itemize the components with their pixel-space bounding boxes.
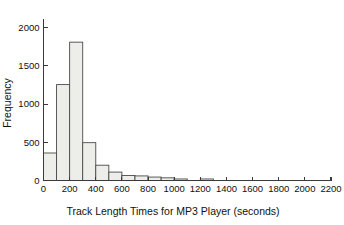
chart-canvas: 0200400600800100012001400160018002000220… [0,0,344,225]
histogram-bar [109,172,122,180]
x-axis-tick-labels: 0200400600800100012001400160018002000220… [41,183,342,194]
histogram-bar [122,176,135,181]
x-axis-title: Track Length Times for MP3 Player (secon… [66,205,279,217]
histogram-bar [57,85,70,181]
histogram-bar [70,42,83,180]
histogram-bar [83,143,96,181]
x-tick-label: 1800 [268,183,289,194]
y-tick-label: 0 [34,175,39,186]
x-tick-label: 600 [114,183,130,194]
histogram-bar [44,153,57,181]
x-tick-label: 1600 [242,183,263,194]
x-tick-label: 400 [88,183,104,194]
y-axis-tick-labels: 0500100015002000 [18,22,39,186]
y-axis-title: Frequency [1,77,13,127]
histogram-bars [44,42,214,180]
histogram-bar [135,176,148,181]
x-tick-label: 200 [62,183,78,194]
histogram-bar [96,165,109,180]
y-tick-label: 1500 [18,60,39,71]
x-tick-label: 1200 [190,183,211,194]
x-tick-label: 1000 [164,183,185,194]
x-tick-label: 800 [140,183,156,194]
histogram-figure: 0200400600800100012001400160018002000220… [0,0,344,225]
x-tick-label: 2200 [320,183,341,194]
y-tick-label: 500 [24,137,40,148]
x-tick-label: 0 [41,183,46,194]
x-tick-label: 2000 [294,183,315,194]
y-tick-label: 2000 [18,22,39,33]
y-tick-label: 1000 [18,98,39,109]
x-tick-label: 1400 [216,183,237,194]
